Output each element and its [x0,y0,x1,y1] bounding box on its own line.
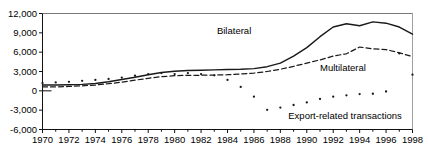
data-point [398,52,400,54]
data-point [279,106,281,108]
data-point [266,109,268,111]
y-tick-label: 3,000 [13,67,37,77]
data-point [319,98,321,100]
data-point [306,101,308,103]
data-point [187,72,189,74]
y-tick-label: 0 [32,86,37,96]
y-tick-label: -3,000 [10,105,37,115]
y-tick-label: 6,000 [13,47,37,57]
series-label-multilateral: Multilateral [320,63,366,73]
series-label-export-related-transactions: Export-related transactions [288,111,402,121]
data-point [385,90,387,92]
data-point [358,93,360,95]
data-point [372,93,374,95]
data-point [107,78,109,80]
data-point [160,72,162,74]
x-tick-label: 1998 [397,135,428,145]
y-tick-label: -6,000 [10,125,37,135]
data-point [81,80,83,82]
data-point [226,79,228,81]
data-point [121,76,123,78]
data-point [213,74,215,76]
data-point [240,86,242,88]
data-point [68,81,70,83]
data-point [55,81,57,83]
data-point [173,73,175,75]
data-point [411,74,413,76]
y-tick-label: 9,000 [13,28,37,38]
data-point [332,95,334,97]
data-point [134,75,136,77]
y-tick-label: 12,000 [8,9,37,19]
data-point [41,82,43,84]
data-point [200,73,202,75]
data-point [147,73,149,75]
data-point [345,94,347,96]
data-point [94,79,96,81]
series-label-bilateral: Bilateral [217,26,251,36]
data-point [292,104,294,106]
data-point [253,95,255,97]
